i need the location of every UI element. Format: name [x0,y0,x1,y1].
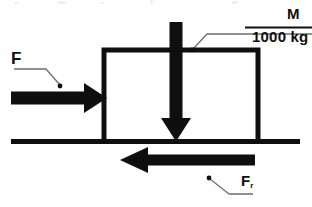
friction-arrow [120,147,255,173]
leader-line-applied-force [14,69,62,88]
weight-arrow [161,22,191,142]
mass-value-label: 1000 kg [252,29,308,44]
applied-force-label: F [11,50,21,67]
friction-force-subscript: r [250,181,253,190]
force-diagram-canvas: F M 1000 kg Fr [0,0,312,207]
leader-dot-applied-force [58,84,63,89]
mass-symbol-label: M [287,6,300,21]
friction-force-label: Fr [241,173,253,188]
friction-force-symbol: F [241,172,250,189]
leader-dot-friction [207,176,212,181]
